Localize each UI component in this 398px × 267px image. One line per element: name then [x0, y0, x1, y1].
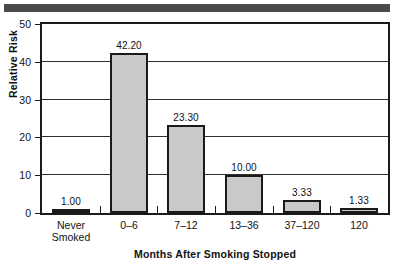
- gridline-20: [42, 136, 388, 137]
- plot-area: 1.0042.2023.3010.003.331.33: [40, 22, 390, 215]
- bar-value-label-1: 42.20: [99, 40, 159, 51]
- gridline-40: [42, 61, 388, 62]
- bar-4[interactable]: [283, 200, 321, 213]
- top-decorative-band: [4, 4, 390, 12]
- category-separator-2: [157, 206, 158, 213]
- x-tick-label-5: 120: [319, 220, 398, 232]
- bar-3[interactable]: [225, 175, 263, 213]
- bar-value-label-0: 1.00: [41, 196, 101, 207]
- bar-0[interactable]: [52, 209, 90, 213]
- bar-value-label-2: 23.30: [156, 112, 216, 123]
- y-tick-label-0: 0: [0, 207, 31, 219]
- category-separator-3: [215, 206, 216, 213]
- bar-2[interactable]: [167, 125, 205, 213]
- category-separator-1: [100, 206, 101, 213]
- category-separator-5: [330, 206, 331, 213]
- y-tick-label-30: 30: [0, 94, 31, 106]
- bar-value-label-4: 3.33: [272, 187, 332, 198]
- y-tick-label-50: 50: [0, 18, 31, 30]
- bar-5[interactable]: [340, 208, 378, 213]
- bar-value-label-5: 1.33: [329, 195, 389, 206]
- bar-chart-figure: Relative Risk 01020304050 1.0042.2023.30…: [0, 0, 398, 267]
- bar-1[interactable]: [110, 53, 148, 213]
- plot-inner: 1.0042.2023.3010.003.331.33: [42, 24, 388, 213]
- category-separator-4: [273, 206, 274, 213]
- bar-value-label-3: 10.00: [214, 162, 274, 173]
- gridline-30: [42, 99, 388, 100]
- y-tick-label-10: 10: [0, 169, 31, 181]
- x-axis-title: Months After Smoking Stopped: [40, 248, 390, 260]
- y-tick-label-20: 20: [0, 131, 31, 143]
- y-tick-label-40: 40: [0, 56, 31, 68]
- gridline-10: [42, 174, 388, 175]
